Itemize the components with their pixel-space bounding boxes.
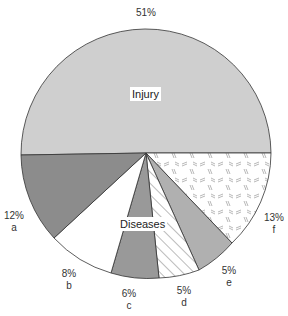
label-d: 5%d	[170, 285, 198, 309]
label-a: 12%a	[0, 210, 28, 234]
pie-chart	[0, 0, 288, 316]
label-injury: Injury	[130, 87, 161, 101]
label-b: 8%b	[55, 268, 83, 292]
label-diseases: Diseases	[118, 217, 167, 231]
label-e: 5%e	[215, 265, 243, 289]
label-injury-pct: 51%	[130, 7, 162, 19]
label-f: 13%f	[260, 212, 288, 236]
label-c: 6%c	[115, 288, 143, 312]
